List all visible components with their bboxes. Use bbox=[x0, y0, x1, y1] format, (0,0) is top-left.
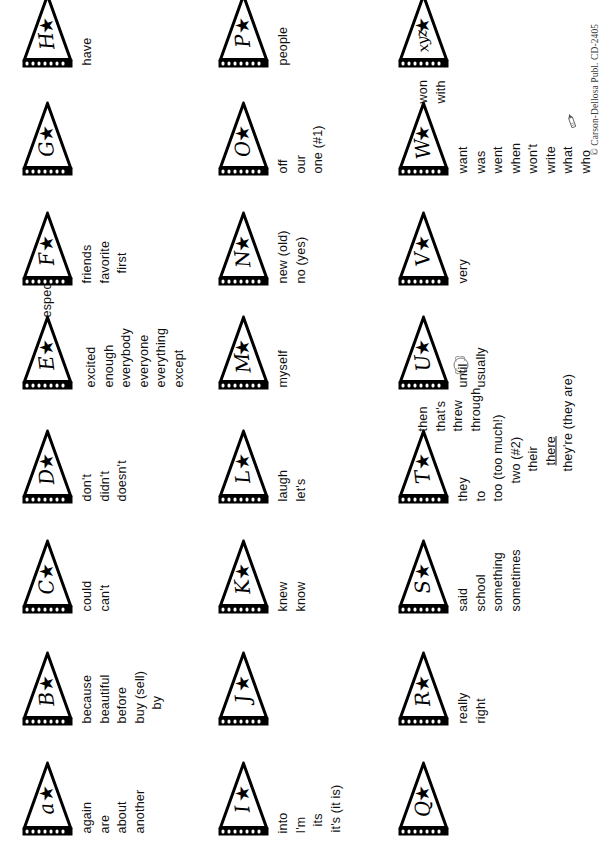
star-icon: ★ bbox=[232, 451, 251, 470]
word-item: again bbox=[78, 789, 96, 833]
word-item: something bbox=[489, 549, 507, 611]
word-item: really bbox=[454, 692, 472, 723]
pennant-h[interactable]: H ★ bbox=[22, 0, 72, 67]
word-item: want bbox=[454, 142, 472, 173]
word-item: enough bbox=[100, 327, 118, 387]
word-item: new (old) bbox=[274, 230, 292, 283]
word-item: went bbox=[489, 142, 507, 173]
pennant-c[interactable]: C ★ bbox=[22, 539, 72, 613]
pennant-xyz[interactable]: xyz ★ bbox=[398, 0, 448, 67]
word-item: that's bbox=[432, 387, 450, 431]
star-icon: ★ bbox=[412, 561, 431, 580]
word-item: except bbox=[170, 327, 188, 387]
word-list-n: new (old) no (yes) bbox=[274, 230, 309, 283]
star-icon: ★ bbox=[36, 783, 55, 802]
word-item: sometimes bbox=[507, 549, 525, 611]
pennant-u[interactable]: U ★ bbox=[398, 315, 448, 389]
word-item: through bbox=[467, 387, 485, 431]
pennant-sheet: a ★ again are about another B ★ because … bbox=[0, 0, 613, 855]
pennant-k[interactable]: K ★ bbox=[218, 539, 268, 613]
star-icon: ★ bbox=[232, 673, 251, 692]
word-list-d: don't didn't doesn't bbox=[78, 460, 131, 501]
word-item: because bbox=[78, 670, 96, 723]
pennant-v[interactable]: V ★ bbox=[398, 211, 448, 285]
pennant-i[interactable]: I ★ bbox=[218, 761, 268, 835]
word-list-s: said school something sometimes bbox=[454, 549, 524, 611]
star-icon: ★ bbox=[232, 123, 251, 142]
word-item: our bbox=[292, 125, 310, 173]
word-item: myself bbox=[274, 350, 292, 387]
star-icon: ★ bbox=[412, 673, 431, 692]
word-list-c: could can't bbox=[78, 580, 113, 611]
word-list-w-extra: won with bbox=[414, 79, 449, 103]
pennant-o[interactable]: O ★ bbox=[218, 101, 268, 175]
word-list-l: laugh let's bbox=[274, 469, 309, 501]
pennant-m[interactable]: M ★ bbox=[218, 315, 268, 389]
word-item: before bbox=[113, 670, 131, 723]
word-item-underlined: there bbox=[542, 373, 560, 501]
pennant-e[interactable]: E ★ bbox=[22, 315, 72, 389]
pennant-q[interactable]: Q ★ bbox=[398, 761, 448, 835]
word-list-h: have bbox=[78, 37, 96, 65]
word-item: by bbox=[148, 670, 166, 723]
star-icon: ★ bbox=[412, 233, 431, 252]
word-item: when bbox=[507, 142, 525, 173]
word-item: school bbox=[472, 549, 490, 611]
word-item: they're (they are) bbox=[559, 373, 577, 501]
star-icon: ★ bbox=[412, 783, 431, 802]
star-icon: ★ bbox=[232, 337, 251, 356]
pennant-p[interactable]: P ★ bbox=[218, 0, 268, 67]
pennant-t[interactable]: T ★ bbox=[398, 429, 448, 503]
star-icon: ★ bbox=[36, 15, 55, 34]
word-item: very bbox=[454, 259, 472, 283]
pennant-a[interactable]: a ★ bbox=[22, 761, 72, 835]
word-item: know bbox=[292, 581, 310, 611]
word-list-e: excited enough everybody everyone everyt… bbox=[82, 327, 187, 387]
copyright-notice: © Carson-Dellosa Publ. CD-2405 bbox=[589, 23, 599, 155]
word-list-k: knew know bbox=[274, 581, 309, 611]
word-item: buy (sell) bbox=[131, 670, 149, 723]
word-item: was bbox=[472, 142, 490, 173]
word-item: don't bbox=[78, 460, 96, 501]
pennant-f[interactable]: F ★ bbox=[22, 211, 72, 285]
pennant-w[interactable]: W ★ bbox=[398, 101, 448, 175]
word-item: off bbox=[274, 125, 292, 173]
pennant-n[interactable]: N ★ bbox=[218, 211, 268, 285]
pennant-g[interactable]: G ★ bbox=[22, 101, 72, 175]
pennant-b[interactable]: B ★ bbox=[22, 651, 72, 725]
word-list-f: friends favorite first bbox=[78, 240, 131, 283]
word-item: have bbox=[78, 37, 96, 65]
word-item: favorite bbox=[96, 240, 114, 283]
pennant-r[interactable]: R ★ bbox=[398, 651, 448, 725]
word-list-p: people bbox=[274, 26, 292, 65]
pennant-d[interactable]: D ★ bbox=[22, 429, 72, 503]
word-list-t-extra: then that's threw through bbox=[414, 387, 484, 431]
word-item: let's bbox=[292, 469, 310, 501]
star-icon: ★ bbox=[36, 233, 55, 252]
star-icon: ★ bbox=[36, 451, 55, 470]
word-list-v: very bbox=[454, 259, 472, 283]
word-item: write bbox=[542, 142, 560, 173]
star-icon: ★ bbox=[412, 15, 431, 34]
pennant-s[interactable]: S ★ bbox=[398, 539, 448, 613]
pennant-l[interactable]: L ★ bbox=[218, 429, 268, 503]
word-item: didn't bbox=[96, 460, 114, 501]
pennant-j[interactable]: J ★ bbox=[218, 651, 268, 725]
word-list-a: again are about another bbox=[78, 789, 148, 833]
word-item: right bbox=[472, 692, 490, 723]
word-item: beautiful bbox=[96, 670, 114, 723]
worksheet-page: a ★ again are about another B ★ because … bbox=[0, 0, 613, 855]
word-item: usually bbox=[472, 347, 490, 387]
star-icon: ★ bbox=[232, 233, 251, 252]
star-icon: ★ bbox=[412, 123, 431, 142]
star-icon: ★ bbox=[36, 561, 55, 580]
word-list-u: until usually bbox=[454, 347, 489, 387]
word-item: another bbox=[131, 789, 149, 833]
star-icon: ★ bbox=[232, 561, 251, 580]
word-item: into bbox=[274, 784, 292, 833]
word-item: everything bbox=[152, 327, 170, 387]
word-item: their bbox=[524, 373, 542, 501]
pencil-icon bbox=[562, 114, 570, 128]
word-item: won't bbox=[524, 142, 542, 173]
word-item: friends bbox=[78, 240, 96, 283]
